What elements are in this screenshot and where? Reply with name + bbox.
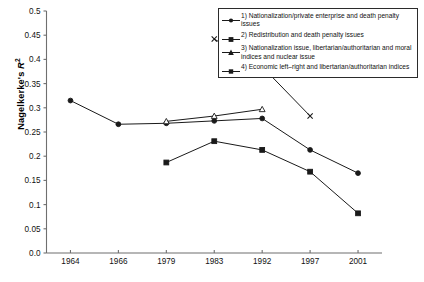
- data-point-circle: [356, 171, 361, 176]
- y-axis-title-exponent: 2: [14, 58, 21, 62]
- y-tick-group: 0.00.050.10.150.20.250.30.350.40.450.5: [25, 7, 47, 258]
- y-axis-title-symbol: R: [16, 62, 26, 69]
- x-tick-group: 1964196619791983199219972001: [61, 250, 367, 266]
- y-tick-label: 0.25: [25, 128, 41, 137]
- series-line: [70, 101, 358, 174]
- chart-container: 0.00.050.10.150.20.250.30.350.40.450.5 1…: [0, 0, 424, 282]
- data-point-square: [308, 169, 313, 174]
- y-tick-label: 0.35: [25, 80, 41, 89]
- legend-item: 1) Nationalization/private enterprise an…: [221, 12, 414, 28]
- legend-label: 3) Nationalization issue, libertarian/au…: [241, 44, 414, 60]
- data-point-cross: [212, 36, 217, 41]
- y-tick-label: 0.4: [29, 55, 41, 64]
- data-point-circle: [68, 98, 73, 103]
- data-point-circle: [260, 116, 265, 121]
- legend-marker-cross-icon: [221, 63, 241, 74]
- data-point-triangle: [259, 106, 265, 111]
- data-point-circle: [116, 122, 121, 127]
- legend-label: 4) Economic left–right and libertarian/a…: [241, 63, 411, 71]
- data-point-circle: [212, 118, 217, 123]
- data-point-cross: [308, 113, 313, 118]
- x-tick-label: 1979: [157, 257, 176, 266]
- y-tick-label: 0.2: [29, 152, 41, 161]
- data-point-square: [164, 160, 169, 165]
- x-tick-label: 1997: [301, 257, 320, 266]
- y-tick-label: 0.5: [29, 7, 41, 16]
- legend-marker-square-icon: [221, 31, 241, 42]
- data-point-circle: [308, 148, 313, 153]
- y-tick-label: 0.0: [29, 249, 41, 258]
- y-axis-title: Nagelkerke's R2: [14, 34, 26, 154]
- y-tick-label: 0.05: [25, 225, 41, 234]
- y-tick-label: 0.45: [25, 31, 41, 40]
- y-tick-label: 0.15: [25, 176, 41, 185]
- legend-marker-triangle-icon: [221, 44, 241, 55]
- legend-item: 2) Redistribution and death penalty issu…: [221, 31, 414, 42]
- x-tick-label: 1966: [109, 257, 128, 266]
- x-tick-label: 2001: [349, 257, 368, 266]
- legend-item: 4) Economic left–right and libertarian/a…: [221, 63, 414, 74]
- data-point-square: [260, 148, 265, 153]
- data-point-square: [212, 139, 217, 144]
- y-tick-label: 0.1: [29, 201, 41, 210]
- chart-legend: 1) Nationalization/private enterprise an…: [218, 8, 418, 78]
- legend-marker-circle-icon: [221, 12, 241, 23]
- y-tick-label: 0.3: [29, 104, 41, 113]
- x-tick-label: 1992: [253, 257, 272, 266]
- y-axis-title-text: Nagelkerke's: [16, 69, 26, 130]
- legend-item: 3) Nationalization issue, libertarian/au…: [221, 44, 414, 60]
- x-tick-label: 1964: [61, 257, 80, 266]
- x-tick-label: 1983: [205, 257, 224, 266]
- legend-label: 2) Redistribution and death penalty issu…: [241, 31, 366, 39]
- data-point-square: [356, 211, 361, 216]
- legend-label: 1) Nationalization/private enterprise an…: [241, 12, 414, 28]
